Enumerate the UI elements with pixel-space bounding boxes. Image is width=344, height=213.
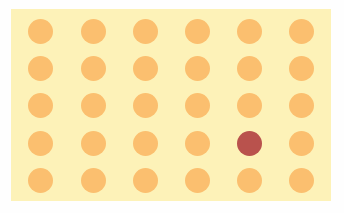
grid-dot[interactable] <box>81 19 106 44</box>
grid-dot[interactable] <box>237 93 262 118</box>
grid-dot[interactable] <box>81 56 106 81</box>
grid-dot[interactable] <box>185 131 210 156</box>
grid-dot[interactable] <box>28 168 53 193</box>
grid-dot[interactable] <box>28 56 53 81</box>
grid-dot[interactable] <box>237 19 262 44</box>
grid-dot[interactable] <box>28 131 53 156</box>
grid-dot[interactable] <box>133 131 158 156</box>
grid-dot[interactable] <box>133 93 158 118</box>
grid-dot[interactable] <box>81 131 106 156</box>
grid-dot[interactable] <box>185 93 210 118</box>
grid-dot[interactable] <box>185 168 210 193</box>
grid-dot[interactable] <box>81 93 106 118</box>
grid-dot[interactable] <box>289 56 314 81</box>
grid-dot[interactable] <box>289 93 314 118</box>
grid-dot[interactable] <box>81 168 106 193</box>
grid-dot[interactable] <box>185 19 210 44</box>
grid-dot[interactable] <box>289 19 314 44</box>
grid-dot[interactable] <box>237 168 262 193</box>
grid-dot[interactable] <box>133 168 158 193</box>
target-dot[interactable] <box>237 131 262 156</box>
grid-dot[interactable] <box>28 19 53 44</box>
grid-dot[interactable] <box>289 131 314 156</box>
grid-dot[interactable] <box>185 56 210 81</box>
grid-dot[interactable] <box>133 56 158 81</box>
grid-dot[interactable] <box>237 56 262 81</box>
grid-dot[interactable] <box>28 93 53 118</box>
grid-dot[interactable] <box>133 19 158 44</box>
grid-dot[interactable] <box>289 168 314 193</box>
game-board <box>11 9 331 201</box>
